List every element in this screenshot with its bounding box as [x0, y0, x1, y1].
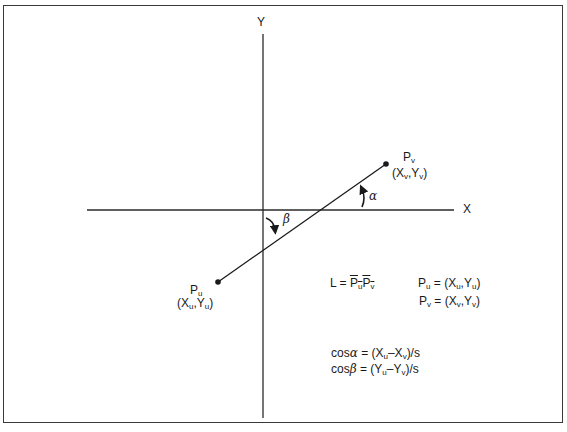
- x-axis-label: X: [463, 202, 471, 216]
- cos-alpha-equation: cosα = (Xu–Xv)/s: [331, 346, 420, 360]
- beta-label: β: [283, 212, 290, 226]
- point-pu: [215, 279, 221, 285]
- alpha-arc-icon: [362, 189, 364, 207]
- y-axis-label: Y: [257, 15, 265, 29]
- cos-beta-equation: cosβ = (Yu–Yv)/s: [331, 362, 419, 376]
- pu-label: Pu: [190, 283, 202, 297]
- segment-pu-pv: [218, 164, 386, 282]
- alpha-label: α: [369, 189, 377, 203]
- pu-definition: Pu = (Xu,Yu): [418, 276, 480, 290]
- beta-arc-icon: [266, 218, 275, 230]
- length-equation: L = PuPv: [330, 276, 374, 290]
- point-pv: [383, 161, 389, 167]
- pv-coords: (Xv,Yv): [392, 166, 427, 180]
- pv-definition: Pv = (Xv,Yv): [419, 294, 480, 308]
- pu-coords: (Xu,Yu): [177, 296, 213, 310]
- pv-label: Pv: [403, 150, 415, 164]
